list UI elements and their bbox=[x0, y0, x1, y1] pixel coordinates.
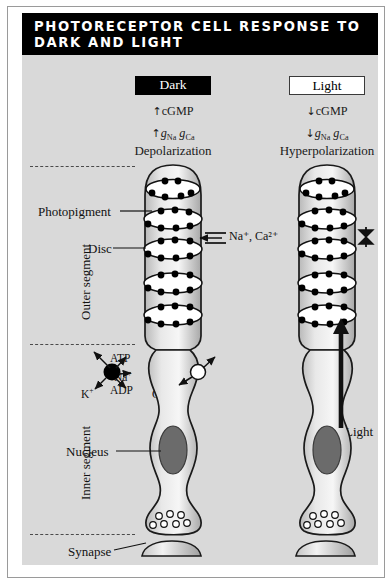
photopigment-dot bbox=[341, 304, 348, 311]
photopigment-dot bbox=[186, 209, 193, 216]
photopigment-dot bbox=[178, 193, 185, 200]
photopigment-dot bbox=[326, 207, 333, 214]
vesicle bbox=[173, 521, 180, 528]
closed-channel-icon-light bbox=[359, 227, 373, 247]
photopigment-dot bbox=[173, 225, 180, 232]
cgmp-gated-channel-dark bbox=[191, 365, 206, 380]
photopigment-dot bbox=[187, 287, 194, 294]
photopigment-dot bbox=[173, 321, 180, 328]
photopigment-dot bbox=[316, 194, 323, 201]
vesicle bbox=[332, 512, 339, 519]
photopigment-dot bbox=[341, 272, 348, 279]
diagram-page: PHOTORECEPTOR CELL RESPONSE TO DARK AND … bbox=[0, 0, 392, 585]
photopigment-dot bbox=[149, 190, 156, 197]
photopigment-dot bbox=[158, 289, 165, 296]
vesicle bbox=[150, 522, 157, 529]
photopigment-dot bbox=[145, 221, 152, 228]
vesicle bbox=[315, 521, 322, 528]
photopigment-dot bbox=[175, 178, 182, 185]
photopigment-dot bbox=[187, 272, 194, 279]
photopigment-dot bbox=[327, 225, 334, 232]
photopigment-dot bbox=[316, 178, 323, 185]
photopigment-dot bbox=[299, 317, 306, 324]
photopigment-dot bbox=[312, 238, 319, 245]
synapse-dark bbox=[142, 541, 201, 556]
photopigment-dot bbox=[158, 225, 165, 232]
photopigment-dot bbox=[327, 289, 334, 296]
vesicle bbox=[321, 511, 328, 518]
photopigment-dot bbox=[341, 287, 348, 294]
photopigment-dot bbox=[162, 194, 169, 201]
photopigment-dot bbox=[145, 251, 152, 258]
photopigment-dot bbox=[327, 321, 334, 328]
pump-arrow-atp bbox=[116, 357, 126, 368]
photopigment-dot bbox=[312, 321, 319, 328]
vesicle bbox=[310, 513, 317, 520]
photopigment-dot bbox=[341, 253, 348, 260]
vesicle bbox=[178, 512, 185, 519]
photopigment-dot bbox=[329, 178, 336, 185]
photopigment-dot bbox=[172, 207, 179, 214]
leader-line-synapse bbox=[114, 543, 146, 550]
photopigment-dot bbox=[341, 238, 348, 245]
photopigment-dot bbox=[327, 255, 334, 262]
vesicle bbox=[156, 513, 163, 520]
photopigment-dot bbox=[187, 304, 194, 311]
synapse-light bbox=[296, 541, 355, 556]
photopigment-dot bbox=[299, 251, 306, 258]
photopigment-dot bbox=[187, 238, 194, 245]
photopigment-dot bbox=[312, 289, 319, 296]
photopigment-dot bbox=[172, 237, 179, 244]
photoreceptor-cell-dark bbox=[94, 165, 226, 556]
vesicle bbox=[167, 511, 174, 518]
photopigment-dot bbox=[173, 289, 180, 296]
photopigment-dot bbox=[188, 190, 195, 197]
pump-arrow-na bbox=[119, 373, 131, 374]
photopigment-dot bbox=[326, 237, 333, 244]
vesicle bbox=[304, 522, 311, 529]
photopigment-dot bbox=[158, 321, 165, 328]
photopigment-dot bbox=[340, 209, 347, 216]
photopigment-dot bbox=[187, 223, 194, 230]
photopigment-dot bbox=[158, 238, 165, 245]
photoreceptor-cell-light bbox=[296, 165, 373, 556]
photopigment-dot bbox=[341, 223, 348, 230]
pump-arrow-k bbox=[95, 378, 106, 389]
photopigment-dot bbox=[299, 221, 306, 228]
photopigment-dot bbox=[299, 285, 306, 292]
photopigment-dot bbox=[145, 317, 152, 324]
photopigment-dot bbox=[162, 178, 169, 185]
photopigment-dot bbox=[312, 208, 319, 215]
photopigment-dot bbox=[342, 190, 349, 197]
vesicle bbox=[184, 520, 191, 527]
vesicle bbox=[338, 520, 345, 527]
photopigment-dot bbox=[312, 255, 319, 262]
pump-arrow-adp bbox=[116, 379, 126, 388]
vesicle bbox=[161, 521, 168, 528]
photopigment-dot bbox=[326, 303, 333, 310]
photopigment-dot bbox=[158, 208, 165, 215]
vesicle bbox=[327, 521, 334, 528]
channel-arrow-na-in bbox=[203, 357, 215, 368]
photopigment-dot bbox=[312, 272, 319, 279]
pump-arrow-out-upleft bbox=[94, 352, 110, 368]
photopigment-dot bbox=[187, 253, 194, 260]
photopigment-dot bbox=[172, 271, 179, 278]
photopigment-dot bbox=[312, 225, 319, 232]
photopigment-dot bbox=[172, 303, 179, 310]
photopigment-dot bbox=[158, 255, 165, 262]
nucleus-light bbox=[313, 426, 341, 474]
photopigment-dot bbox=[173, 255, 180, 262]
photopigment-dot bbox=[158, 304, 165, 311]
cell-diagram-svg bbox=[0, 0, 392, 585]
photopigment-dot bbox=[332, 193, 339, 200]
nucleus-dark bbox=[159, 426, 187, 474]
photopigment-dot bbox=[187, 319, 194, 326]
photopigment-dot bbox=[312, 304, 319, 311]
photopigment-dot bbox=[303, 190, 310, 197]
photopigment-dot bbox=[158, 272, 165, 279]
photopigment-dot bbox=[145, 285, 152, 292]
photopigment-dot bbox=[326, 271, 333, 278]
